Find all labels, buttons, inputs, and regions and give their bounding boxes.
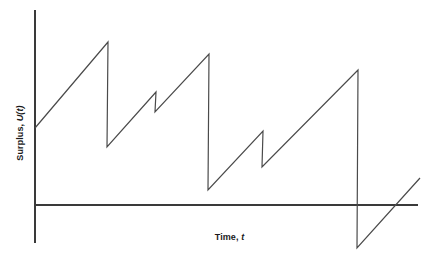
chart-plot-area xyxy=(0,0,429,262)
surplus-process-chart: Surplus, U(t) Time, t xyxy=(0,0,429,262)
x-axis-title-plain: Time xyxy=(215,232,236,242)
y-axis-title: Surplus, U(t) xyxy=(0,92,34,182)
y-axis-title-comma: , xyxy=(15,121,25,126)
y-axis-title-plain: Surplus xyxy=(15,126,25,160)
y-axis-title-text: Surplus, U(t) xyxy=(15,85,25,181)
surplus-sawtooth-path xyxy=(35,42,420,248)
y-axis-title-symbol: U(t) xyxy=(15,105,25,121)
x-axis-title-symbol: t xyxy=(241,232,244,242)
x-axis-title: Time, t xyxy=(0,232,429,242)
